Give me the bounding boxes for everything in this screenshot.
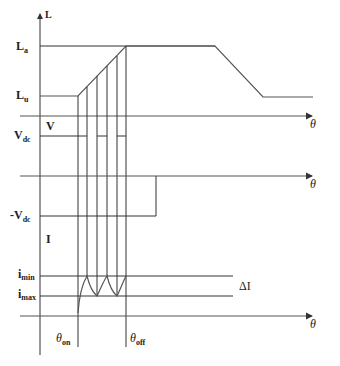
inductance-theta-label: θ [310,117,316,131]
current-waveform [78,276,126,313]
current-theta-label: θ [310,317,316,331]
voltage-axis-label: V [46,119,55,133]
delta-i-label: ΔI [239,279,251,293]
theta-on-label: θon [56,331,71,347]
inductance-axis-label: L [45,9,52,20]
inductance-profile [40,46,313,97]
voltage-panel: V Vdc θ -Vdc [10,119,316,224]
switching-lines [78,46,126,347]
current-panel: I imin imax ΔI θ [18,232,316,331]
theta-off-label: θoff [130,331,146,347]
voltage-theta-label: θ [310,177,316,191]
la-label: La [16,39,28,55]
srm-waveform-diagram: L θ La Lu V Vdc θ -Vdc [0,0,340,366]
neg-vdc-pulse [40,176,156,216]
lu-label: Lu [16,88,29,104]
imin-label: imin [18,267,35,282]
neg-vdc-label: -Vdc [10,208,31,224]
current-axis-label: I [46,232,51,246]
inductance-panel: θ La Lu [16,39,316,131]
imax-label: imax [18,287,36,302]
vdc-label: Vdc [14,128,31,144]
